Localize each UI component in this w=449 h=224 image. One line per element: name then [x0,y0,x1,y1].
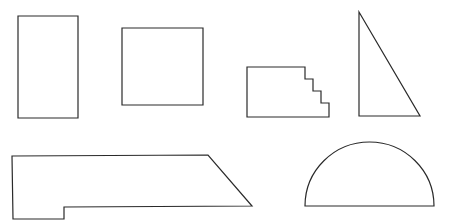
notched-trapezoid [12,155,252,219]
shapes-diagram [0,0,449,224]
right-triangle [359,12,420,116]
semicircle [305,142,434,206]
staircase-shape [247,67,329,117]
tall-rectangle [18,16,78,118]
square [122,28,203,105]
diagram-svg [0,0,449,224]
